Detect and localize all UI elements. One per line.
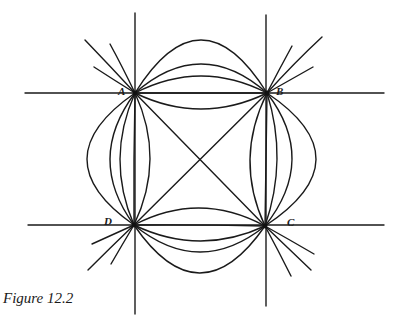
- point-label-B: B: [275, 85, 283, 97]
- arc-BC: [265, 93, 292, 226]
- point-D: [132, 223, 137, 228]
- point-label-A: A: [117, 85, 125, 97]
- arc-DC: [134, 225, 265, 273]
- figure-canvas: ABCD Figure 12.2: [0, 0, 394, 325]
- arc-AD: [110, 93, 135, 225]
- arc-AB: [135, 64, 267, 93]
- arc-AD: [134, 93, 150, 225]
- point-C: [263, 224, 268, 229]
- point-B: [265, 91, 270, 96]
- point-label-C: C: [287, 216, 295, 228]
- point-A: [133, 91, 138, 96]
- figure-caption: Figure 12.2: [3, 290, 73, 307]
- arc-AB: [135, 93, 267, 109]
- tail-curve-A: [85, 40, 135, 93]
- arc-DC: [134, 208, 265, 226]
- geometry-diagram: ABCD: [0, 0, 394, 325]
- arc-DC: [134, 225, 265, 226]
- arc-DC: [134, 225, 265, 252]
- point-label-D: D: [103, 215, 112, 227]
- arc-BC: [250, 93, 267, 226]
